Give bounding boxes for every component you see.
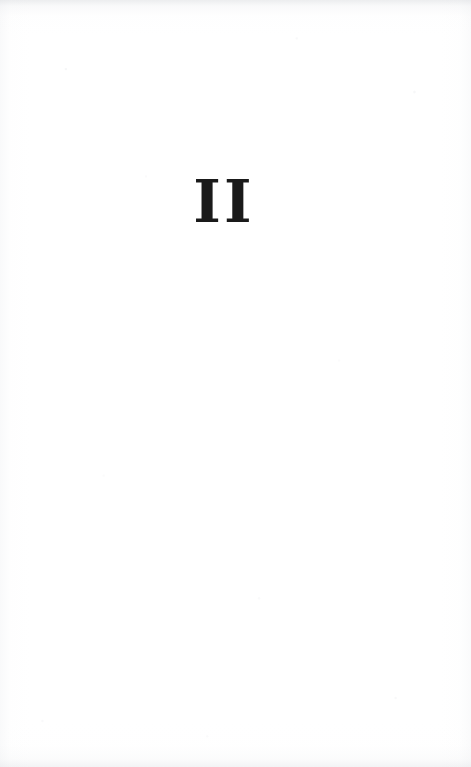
page-edge-grain [0, 0, 471, 767]
part-divider-block: II [0, 176, 445, 228]
part-numeral: II [190, 176, 255, 228]
scanned-page: II [0, 0, 471, 767]
page-speckle-texture [0, 0, 471, 767]
